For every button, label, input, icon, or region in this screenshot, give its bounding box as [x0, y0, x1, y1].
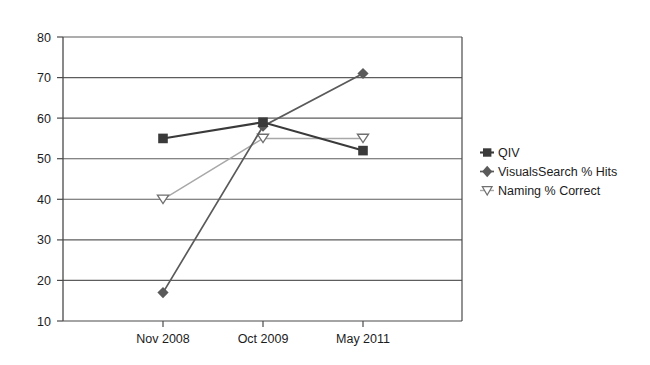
y-axis-label-60: 60 [37, 112, 51, 126]
filled-square-marker [358, 146, 368, 156]
y-axis-label-20: 20 [37, 274, 51, 288]
legend-entry-visualssearch[interactable]: VisualsSearch % Hits [480, 165, 617, 179]
legend-label-qiv: QIV [498, 146, 520, 160]
x-axis-tick-labels: Nov 2008 Oct 2009 May 2011 [136, 332, 390, 346]
y-axis-label-40: 40 [37, 193, 51, 207]
line-chart: 80 70 60 50 40 30 20 10 Nov 2008 Oct 200… [0, 0, 650, 365]
chart-background [0, 0, 650, 365]
y-axis-label-30: 30 [37, 233, 51, 247]
filled-square-icon [483, 148, 491, 156]
x-axis-label-oct-2009: Oct 2009 [238, 332, 289, 346]
legend-entry-naming[interactable]: Naming % Correct [480, 184, 601, 198]
y-axis-label-50: 50 [37, 152, 51, 166]
filled-square-marker [158, 134, 168, 144]
legend-label-naming: Naming % Correct [498, 184, 601, 198]
legend-label-visualssearch: VisualsSearch % Hits [498, 165, 617, 179]
y-axis-label-80: 80 [37, 31, 51, 45]
x-axis-label-nov-2008: Nov 2008 [136, 332, 190, 346]
y-axis-label-10: 10 [37, 315, 51, 329]
y-axis-label-70: 70 [37, 71, 51, 85]
filled-square-marker [258, 117, 268, 127]
x-axis-label-may-2011: May 2011 [336, 332, 390, 346]
chart-container: 80 70 60 50 40 30 20 10 Nov 2008 Oct 200… [0, 0, 650, 365]
